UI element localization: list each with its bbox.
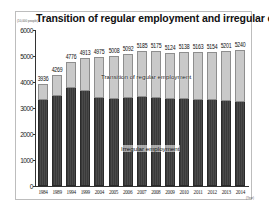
series-label-regular: Transition of regular employment [101,73,191,80]
bar-total-label: 4975 [91,48,107,55]
y-tick-label: 5000 [16,53,33,60]
bar-segment-irregular [123,97,133,186]
y-tick-label: 0 [16,183,33,190]
bar-total-label: 5240 [232,41,248,48]
y-tick-mark [33,30,36,31]
x-tick-label: 2014 [232,189,248,195]
y-tick-mark [33,82,36,83]
y-tick-mark [33,134,36,135]
bar-segment-irregular [66,87,76,186]
bar-segment-regular [207,52,217,100]
series-label-irregular: Irregular employment [120,145,180,152]
x-axis-unit-label: (Year) [246,196,254,200]
bar-segment-regular [80,58,90,91]
y-tick-label: 4000 [16,79,33,86]
bar-segment-regular [38,84,48,101]
y-tick-mark [33,186,36,187]
y-axis-unit-label: (10,000 people) [17,19,38,23]
bar-segment-irregular [52,95,62,186]
x-axis-line [35,186,249,187]
bar-segment-irregular [38,99,48,186]
y-tick-mark [33,160,36,161]
bar-segment-irregular [137,96,147,186]
y-tick-label: 2000 [16,131,33,138]
y-tick-mark [33,108,36,109]
bar-segment-regular [52,75,62,96]
bar-segment-irregular [179,98,189,186]
bar-segment-irregular [165,98,175,186]
bar-total-label: 4269 [49,66,65,73]
bar-segment-irregular [207,99,217,186]
bar-segment-regular [193,52,203,100]
bar-segment-irregular [221,100,231,186]
bar-segment-irregular [235,101,245,186]
bar-segment-irregular [80,90,90,186]
y-tick-mark [33,56,36,57]
bar-segment-irregular [151,97,161,186]
bar-segment-regular [66,62,76,88]
chart-title: Transition of regular employment and irr… [36,12,269,24]
bar-segment-regular [235,50,245,102]
bar-segment-irregular [109,98,119,186]
y-tick-label: 1000 [16,157,33,164]
bar-segment-irregular [193,99,203,186]
bar-segment-regular [221,51,231,102]
bar-total-label: 3936 [35,75,51,82]
y-tick-label: 6000 [16,27,33,34]
bar-segment-irregular [94,97,104,186]
y-tick-label: 3000 [16,105,33,112]
